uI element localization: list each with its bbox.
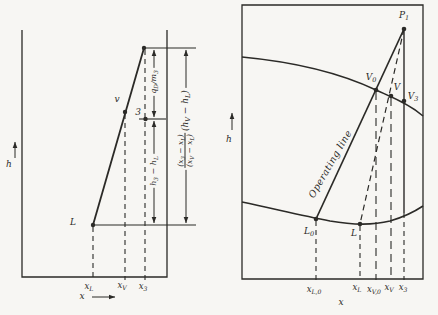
right-tick-xL0: xL,0	[307, 285, 322, 294]
left-point-3-label: 3	[135, 108, 141, 117]
point-L0-label: L0	[304, 227, 314, 236]
left-top-point-dot	[142, 46, 146, 50]
ratio-fraction: (x3 − xL) (xV − xL)	[177, 133, 193, 168]
enthalpy-composition-figure: h x L v 3 xL xV x3 qD/m3 h3 − hL (x3 − x…	[0, 0, 438, 315]
point-V0-dot	[374, 88, 379, 93]
left-tick-x3: x3	[139, 282, 148, 291]
left-x-axis-label: x	[79, 292, 84, 301]
P1-L-dashed-line	[360, 29, 404, 224]
point-L-dot	[358, 222, 363, 227]
point-L-label: L	[351, 229, 357, 238]
left-point-V-dot	[123, 110, 127, 114]
left-point-3-dot	[143, 117, 147, 121]
right-h-axis-label: h	[226, 135, 232, 144]
left-point-L-dot	[91, 223, 95, 227]
left-point-L-label: L	[70, 218, 76, 227]
left-tie-line	[93, 48, 144, 225]
point-L0-dot	[314, 217, 319, 222]
dim-qd-over-m3-label: qD/m3	[149, 68, 158, 96]
point-V-label: V	[394, 83, 401, 92]
left-point-V-label: v	[114, 95, 119, 104]
right-tick-xV: xV	[384, 283, 393, 292]
dim-ratio-label: (x3 − xL) (xV − xL) (hV − hL)	[176, 88, 193, 170]
right-tick-xV0: xV,0	[367, 285, 381, 294]
right-x-axis-label: x	[338, 298, 343, 307]
point-V-dot	[389, 94, 394, 99]
point-V0-label: V0	[366, 73, 377, 82]
point-P1-dot	[402, 27, 407, 32]
diagram-strokes	[0, 0, 438, 315]
point-P1-label: P1	[399, 11, 409, 20]
point-V3-dot	[402, 99, 407, 104]
point-V3-label: V3	[408, 92, 419, 101]
ratio-denominator: (xV − xL)	[185, 133, 193, 168]
right-tick-xL: xL	[353, 283, 362, 292]
left-h-axis-label: h	[6, 160, 12, 169]
liquid-saturation-curve	[242, 202, 423, 224]
right-tick-x3: x3	[399, 283, 408, 292]
ratio-factor: (hV − hL)	[180, 90, 189, 131]
dim-h3-minus-hL-label: h3 − hL	[149, 154, 158, 188]
left-tick-xL: xL	[85, 282, 94, 291]
left-tick-xV: xV	[117, 281, 126, 290]
